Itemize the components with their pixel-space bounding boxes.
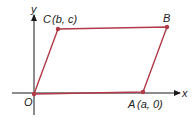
vertex-coords-C: (b, c) xyxy=(52,13,77,25)
x-axis-label: x xyxy=(181,87,188,99)
vertex-point-B xyxy=(165,25,169,29)
vertex-coords-A: (a, 0) xyxy=(137,98,163,110)
diagram-canvas: y x O C (b, c) B A (a, 0) xyxy=(0,0,194,121)
vertex-point-C xyxy=(56,27,60,31)
parallelogram xyxy=(34,27,167,94)
vertex-label-A: A xyxy=(127,98,135,110)
vertex-label-B: B xyxy=(163,12,170,24)
origin-label: O xyxy=(24,96,33,108)
y-axis-label: y xyxy=(30,3,38,15)
vertex-point-A xyxy=(141,90,145,94)
vertex-label-C: C xyxy=(43,13,51,25)
